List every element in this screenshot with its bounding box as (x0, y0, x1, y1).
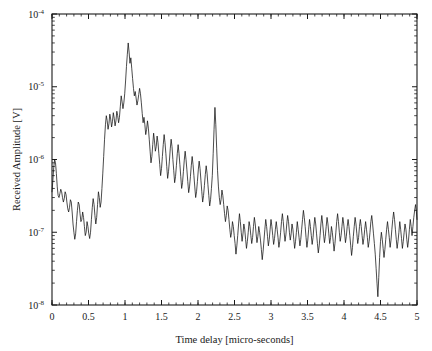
x-tick-label: 1 (123, 311, 128, 322)
y-tick-label: 10-4 (28, 8, 44, 20)
x-tick-label: 0 (50, 311, 55, 322)
x-axis-title: Time delay [micro-seconds] (175, 334, 293, 345)
x-tick-label: 0.5 (82, 311, 95, 322)
x-tick-label: 3 (269, 311, 274, 322)
y-axis-title: Received Amplitude [V] (11, 108, 22, 211)
figure-container: 00.511.522.533.544.5510-810-710-610-510-… (0, 0, 432, 351)
line-chart: 00.511.522.533.544.5510-810-710-610-510-… (0, 0, 432, 351)
plot-frame (52, 14, 417, 305)
x-tick-label: 2 (196, 311, 201, 322)
y-tick-label: 10-8 (28, 299, 44, 311)
y-tick-label: 10-6 (28, 153, 44, 165)
data-trace (52, 43, 417, 297)
y-tick-label: 10-5 (28, 80, 44, 92)
x-tick-label: 5 (415, 311, 420, 322)
x-tick-label: 3.5 (301, 311, 314, 322)
x-tick-label: 4.5 (374, 311, 387, 322)
x-tick-label: 4 (342, 311, 347, 322)
x-tick-label: 2.5 (228, 311, 241, 322)
x-tick-label: 1.5 (155, 311, 168, 322)
y-tick-label: 10-7 (28, 226, 44, 238)
